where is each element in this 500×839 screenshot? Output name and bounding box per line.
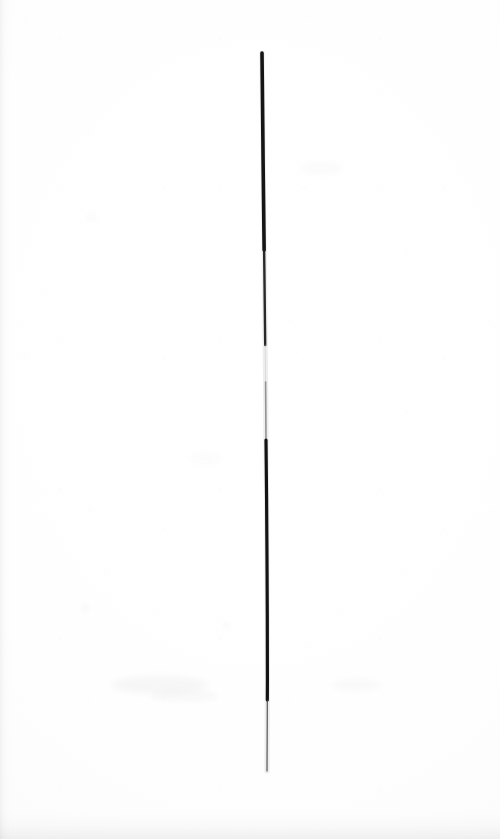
scanned-page [0,0,500,839]
ink-segment-lower-dark [266,440,267,700]
ink-segment-top-blunt [262,53,264,250]
vertical-ink-line-icon [0,0,500,839]
ink-segment-upper-taper [264,250,265,345]
